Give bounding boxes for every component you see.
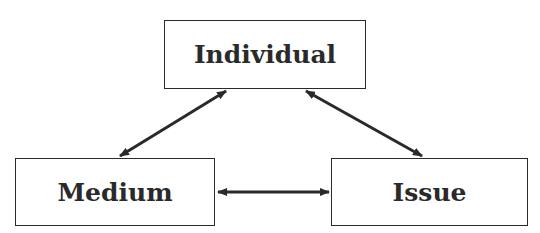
node-label: Issue	[393, 178, 467, 207]
arrow-individual-issue	[306, 91, 422, 156]
node-label: Individual	[194, 40, 336, 69]
arrow-individual-medium	[120, 91, 226, 156]
node-issue: Issue	[331, 158, 528, 226]
node-medium: Medium	[15, 158, 215, 226]
node-individual: Individual	[164, 20, 366, 89]
node-label: Medium	[57, 178, 172, 207]
